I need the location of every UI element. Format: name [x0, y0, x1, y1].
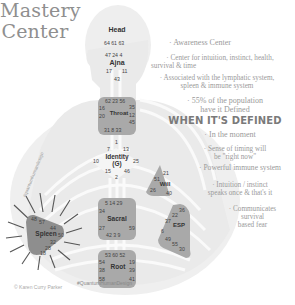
root-gate-39: 39 — [129, 267, 135, 273]
note-lymphatic: · Associated with the lymphatic system, … — [142, 74, 292, 90]
identity-gate-13: 13 — [123, 146, 129, 152]
note-intuition-line2: survival & time — [145, 62, 295, 70]
note-timing: · Sense of timing will be "right now" — [190, 145, 280, 161]
sacral-gate-59: 59 — [129, 225, 135, 231]
throat-gate-35: 35 — [129, 104, 135, 110]
center-head: Head — [100, 26, 134, 33]
note-population-line1: · 55% of the population — [160, 96, 290, 105]
note-awareness: · Awareness Center — [150, 39, 250, 47]
note-intuition-line1: · Center for intuition, instinct, health… — [145, 54, 295, 62]
note-timing-line2: be "right now" — [190, 153, 280, 161]
identity-gate-2: 2 — [115, 174, 118, 180]
note-fear: · Communicates survival based fear — [210, 205, 295, 229]
center-spleen: Spleen — [32, 230, 60, 237]
ajna-gates-top: 47 24 4 — [105, 52, 122, 58]
spleen-gate-50: 50 — [58, 232, 64, 238]
identity-label: Identity — [98, 153, 136, 160]
defined-header: WHEN IT'S DEFINED — [157, 115, 293, 126]
spleen-gate-57: 57 — [39, 219, 45, 225]
throat-gates-top: 62 23 56 — [105, 98, 125, 104]
center-will: Will — [155, 181, 175, 187]
note-in-the-moment: · In the moment — [180, 131, 280, 139]
identity-gate-46: 46 — [124, 168, 130, 174]
identity-label-g: (G) — [98, 160, 136, 167]
head-gates: 64 61 63 — [104, 40, 124, 46]
esp-gate-55: 55 — [172, 241, 178, 247]
note-intuition-instinct: · Intuition / instinct speaks once & tha… — [185, 181, 295, 197]
hashtag-footer: #QuantumHumanDesign — [77, 280, 132, 286]
note-immune: · Powerful immune system — [185, 164, 295, 172]
esp-gate-36: 36 — [179, 207, 185, 213]
root-gate-19: 19 — [129, 259, 135, 265]
center-esp: ESP — [168, 222, 190, 228]
throat-gate-12: 12 — [129, 112, 135, 118]
identity-gate-7: 7 — [107, 146, 110, 152]
note-timing-line1: · Sense of timing will — [190, 145, 280, 153]
copyright: © Karen Curry Parker — [14, 284, 62, 290]
esp-gate-6: 6 — [161, 228, 164, 234]
spleen-gate-48: 48 — [31, 216, 37, 222]
ajna-gate-17: 17 — [106, 68, 112, 74]
identity-gate-1: 1 — [115, 139, 118, 145]
note-fear-line3: based fear — [210, 221, 295, 229]
center-sacral: Sacral — [100, 215, 134, 222]
note-fear-line1: · Communicates — [210, 205, 295, 213]
center-ajna: Ajna — [100, 59, 134, 66]
note-intuition-instinct-line1: · Intuition / instinct — [185, 181, 295, 189]
will-gate-40: 40 — [166, 190, 172, 196]
note-fear-line2: survival — [210, 213, 295, 221]
throat-gates-bottom: 31 8 33 — [104, 127, 121, 133]
sacral-gates-bottom: 42 3 9 — [106, 232, 120, 238]
sacral-gate-34: 34 — [99, 208, 105, 214]
note-lymphatic-line2: spleen & immune system — [142, 82, 292, 90]
spleen-gate-18: 18 — [40, 250, 46, 256]
esp-gate-49: 49 — [165, 236, 171, 242]
identity-gate-15: 15 — [105, 168, 111, 174]
note-intuition: · Center for intuition, instinct, health… — [145, 54, 295, 70]
note-intuition-instinct-line2: speaks once & that's it — [185, 189, 295, 197]
note-lymphatic-line1: · Associated with the lymphatic system, — [142, 74, 292, 82]
ajna-gate-43: 43 — [114, 76, 120, 82]
esp-gate-22: 22 — [172, 212, 178, 218]
center-identity: Identity (G) — [98, 153, 136, 167]
throat-gate-45: 45 — [129, 119, 135, 125]
will-gate-21: 21 — [163, 170, 169, 176]
sacral-gate-27: 27 — [99, 225, 105, 231]
note-population-line2: have it Defined — [160, 105, 290, 114]
note-population: · 55% of the population have it Defined — [160, 96, 290, 114]
ajna-gate-11: 11 — [122, 68, 127, 74]
root-gates-top: 53 60 52 — [105, 252, 125, 258]
sacral-gates-top: 5 14 29 — [105, 200, 122, 206]
will-gate-26: 26 — [150, 187, 156, 193]
identity-gate-25: 25 — [133, 158, 139, 164]
esp-gate-30: 30 — [179, 246, 185, 252]
